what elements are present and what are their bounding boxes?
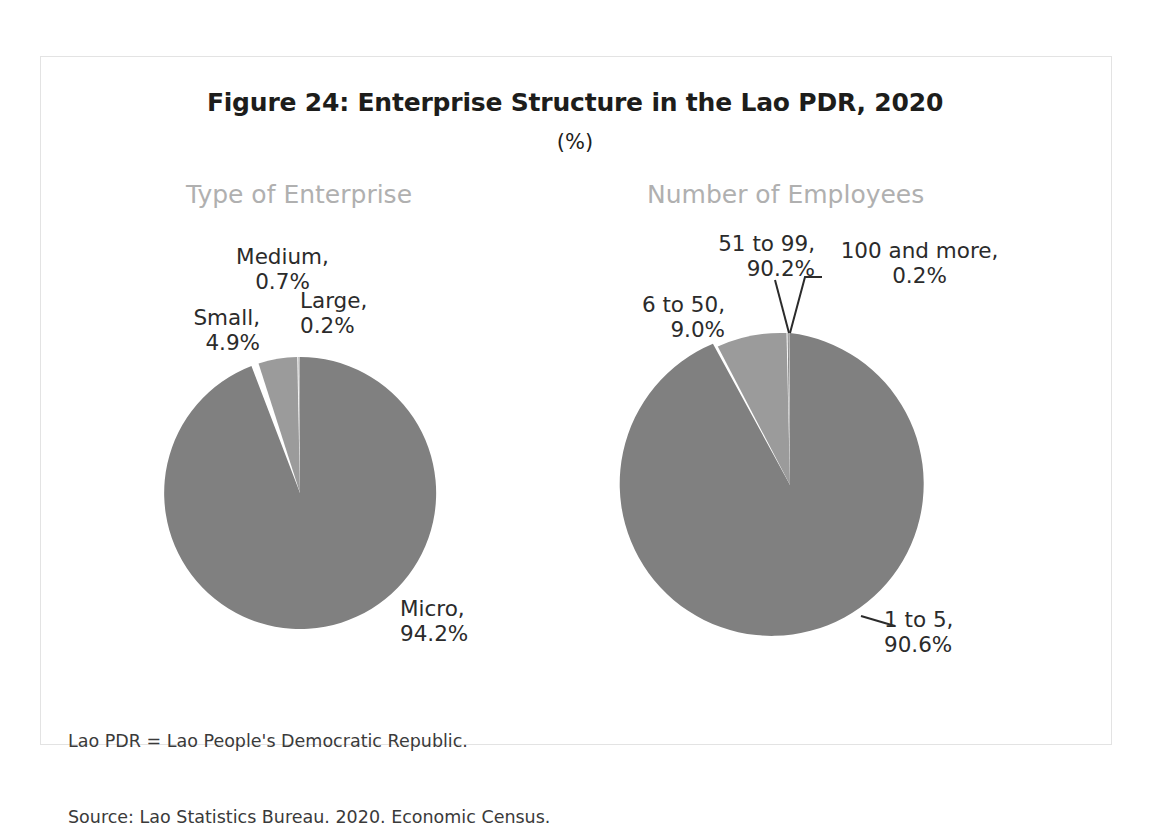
figure-subtitle-units: (%)	[0, 130, 1150, 154]
pie-label-51-to-99: 51 to 99, 90.2%	[655, 231, 815, 282]
panel-heading-type-of-enterprise: Type of Enterprise	[186, 180, 412, 209]
pie-label-large: Large, 0.2%	[300, 288, 420, 339]
figure-title: Figure 24: Enterprise Structure in the L…	[0, 88, 1150, 117]
panel-heading-number-of-employees: Number of Employees	[647, 180, 924, 209]
pie-slice-micro	[164, 357, 436, 629]
figure-note-abbreviation: Lao PDR = Lao People's Democratic Republ…	[68, 729, 550, 754]
figure-note-source: Source: Lao Statistics Bureau. 2020. Eco…	[68, 805, 550, 827]
pie-label-6-to-50: 6 to 50, 9.0%	[585, 292, 725, 343]
pie-label-100-and-more: 100 and more, 0.2%	[812, 238, 1027, 289]
pie-label-1-to-5: 1 to 5, 90.6%	[884, 607, 1064, 658]
pie-label-small: Small, 4.9%	[130, 305, 260, 356]
pie-chart-type-of-enterprise	[120, 320, 490, 620]
figure-notes: Lao PDR = Lao People's Democratic Republ…	[68, 678, 550, 827]
pie-label-micro: Micro, 94.2%	[400, 596, 580, 647]
